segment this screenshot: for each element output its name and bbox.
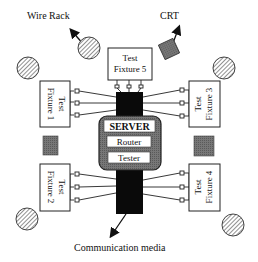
wire-rack-circle-icon: [78, 37, 100, 59]
fixture-2-connectors: [70, 172, 116, 202]
fixture-label-line2: Fixture 5: [114, 64, 147, 74]
fixture-label-line1: Test: [57, 97, 67, 112]
wire-rack-label: Wire Rack: [27, 10, 70, 21]
test-fixture-2: Test Fixture 2: [40, 164, 70, 211]
test-fixture-4: Test Fixture 4: [189, 164, 220, 211]
fixture-1-connectors: [70, 89, 116, 117]
communication-media-arrow-icon: [111, 214, 126, 236]
obstacle-square-icon: [43, 136, 58, 155]
communication-media-label: Communication media: [74, 242, 166, 253]
server-block: SERVER Router Tester: [99, 116, 161, 170]
crt-annotation: CRT: [158, 10, 179, 60]
fixture-label-line1: Test: [123, 53, 138, 63]
communication-media-annotation: Communication media: [74, 214, 166, 253]
fixture-5-connectors: [115, 80, 143, 92]
wire-rack-circle-icon: [213, 57, 235, 79]
wire-rack-circle-icon: [222, 214, 244, 236]
fixture-label-line1: Test: [57, 180, 67, 195]
fixture-label-line2: Fixture 4: [204, 170, 214, 203]
crt-label: CRT: [160, 10, 179, 21]
wire-rack-annotation: Wire Rack: [27, 10, 84, 45]
wire-rack-circle-icon: [17, 57, 39, 79]
obstacle-square-icon: [194, 136, 214, 156]
test-fixture-5: Test Fixture 5: [108, 48, 152, 80]
router-label: Router: [117, 137, 142, 147]
fixture-3-connectors: [143, 88, 189, 118]
server-title: SERVER: [109, 121, 150, 132]
fixture-label-line2: Fixture 3: [204, 87, 214, 120]
crt-icon: [158, 38, 179, 59]
test-fixture-3: Test Fixture 3: [189, 81, 220, 127]
wire-rack-circle-icon: [16, 208, 38, 230]
fixture-label-line2: Fixture 2: [46, 171, 56, 204]
fixture-4-connectors: [143, 171, 189, 202]
test-fixture-1: Test Fixture 1: [40, 81, 70, 127]
tester-label: Tester: [118, 153, 140, 163]
test-floor-diagram: Wire Rack CRT: [0, 0, 258, 262]
fixture-label-line1: Test: [193, 179, 203, 194]
fixture-label-line2: Fixture 1: [46, 88, 56, 121]
fixture-label-line1: Test: [193, 96, 203, 111]
